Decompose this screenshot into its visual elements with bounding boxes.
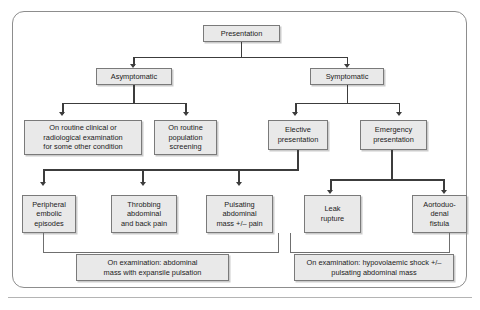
connector-asymptomatic-stem [133, 85, 135, 103]
node-aortoduodenal-fistula: Aortoduo- denal fistula [412, 195, 467, 233]
node-pulsating-mass: Pulsating abdominal mass +/– pain [206, 195, 273, 233]
arrowhead-leak-rupture [327, 190, 333, 194]
node-routine-clinical: On routine clinical or radiological exam… [24, 120, 142, 155]
diagram-canvas: Presentation Asymptomatic Symptomatic On… [0, 0, 480, 310]
connector-symptomatic-bus [295, 103, 400, 105]
arrowhead-elective [292, 112, 298, 116]
arrowhead-routine-clinical [59, 112, 65, 116]
bracket-left-group [43, 233, 279, 253]
connector-emergency-bus [330, 179, 445, 181]
arrowhead-aortoduodenal [441, 190, 447, 194]
connector-elective-to-throbbing [142, 169, 144, 183]
node-examination-left: On examination: abdominal mass with expa… [76, 254, 229, 281]
arrowhead-emergency [396, 112, 402, 116]
node-elective-presentation: Elective presentation [268, 120, 328, 150]
node-examination-right: On examination: hypovolaemic shock +/– p… [294, 254, 454, 281]
connector-symptomatic-stem [347, 85, 349, 103]
node-peripheral-embolic: Peripheral embolic episodes [22, 195, 76, 233]
node-emergency-presentation: Emergency presentation [360, 120, 427, 150]
connector-emergency-stem [391, 150, 393, 180]
connector-root-bus [133, 57, 348, 59]
connector-root-stem [241, 42, 243, 57]
frame-baseline-rule [8, 297, 472, 298]
node-throbbing-pain: Throbbing abdominal and back pain [111, 195, 177, 233]
node-presentation: Presentation [203, 25, 280, 42]
node-leak-rupture: Leak rupture [304, 195, 361, 233]
bracket-right-group [290, 233, 450, 253]
arrowhead-throbbing-pain [140, 182, 146, 186]
arrowhead-routine-screening [183, 112, 189, 116]
node-routine-screening: On routine population screening [154, 120, 217, 155]
arrowhead-peripheral-embolic [40, 182, 46, 186]
node-symptomatic: Symptomatic [310, 68, 384, 85]
connector-elective-bus [43, 169, 299, 171]
node-asymptomatic: Asymptomatic [96, 68, 172, 85]
connector-asymptomatic-bus [62, 103, 187, 105]
connector-elective-to-pulsating [238, 169, 240, 183]
connector-elective-to-peripheral [43, 169, 45, 183]
connector-elective-stem [297, 150, 299, 170]
arrowhead-pulsating-mass [236, 182, 242, 186]
